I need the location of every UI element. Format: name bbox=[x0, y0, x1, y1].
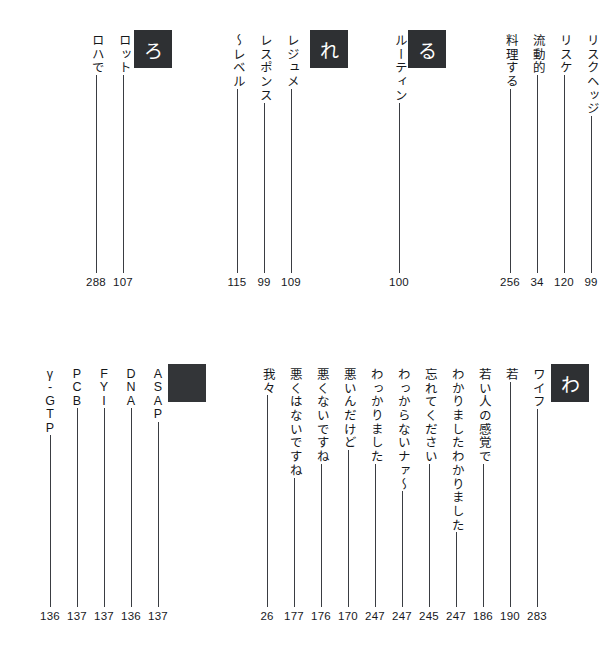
leader-line bbox=[291, 89, 292, 273]
leader-line bbox=[237, 89, 238, 273]
page-number: 245 bbox=[419, 607, 439, 623]
leader-line bbox=[123, 75, 124, 272]
index-entry: 若い人の感覚で186 bbox=[470, 368, 496, 622]
leader-line bbox=[564, 75, 565, 272]
leader-line bbox=[375, 464, 376, 607]
section-marker bbox=[168, 364, 206, 402]
index-term: リスクヘッジ bbox=[584, 34, 599, 116]
page-number: 115 bbox=[228, 273, 247, 289]
leader-line bbox=[510, 89, 511, 273]
index-entry: 悪くはないですね177 bbox=[281, 368, 307, 622]
page-number: 247 bbox=[365, 607, 385, 623]
index-entry: 〜レベル115 bbox=[224, 34, 250, 288]
index-term: ルーティン bbox=[392, 34, 407, 103]
page-number: 136 bbox=[40, 607, 60, 623]
index-entry: ルーティン100 bbox=[386, 34, 412, 288]
leader-line bbox=[399, 103, 400, 273]
page-number: 247 bbox=[392, 607, 412, 623]
page-number: 99 bbox=[257, 273, 270, 289]
page-number: 247 bbox=[446, 607, 466, 623]
page-number: 186 bbox=[473, 607, 493, 623]
leader-line bbox=[158, 422, 159, 607]
page-number: 99 bbox=[584, 273, 597, 289]
page-number: 107 bbox=[113, 273, 133, 289]
index-term: FYI bbox=[100, 368, 108, 408]
index-term: PCB bbox=[72, 368, 81, 408]
index-term: ロット bbox=[116, 34, 131, 75]
index-entry: DNA136 bbox=[118, 368, 144, 622]
leader-line bbox=[77, 408, 78, 606]
page-number: 137 bbox=[94, 607, 114, 623]
index-entry: 忘れてください245 bbox=[416, 368, 442, 622]
leader-line bbox=[96, 75, 97, 272]
leader-line bbox=[483, 464, 484, 607]
page-number: 100 bbox=[389, 273, 409, 289]
page-number: 170 bbox=[338, 607, 358, 623]
index-term: DNA bbox=[126, 368, 135, 408]
index-term: ASAP bbox=[154, 368, 162, 422]
index-term: 悪くはないですね bbox=[287, 368, 302, 478]
index-term: 流動的 bbox=[530, 34, 545, 75]
index-entry: 若190 bbox=[497, 368, 523, 622]
page-number: 137 bbox=[67, 607, 87, 623]
page-number: 109 bbox=[281, 273, 301, 289]
page-number: 177 bbox=[284, 607, 304, 623]
index-entry: FYI137 bbox=[91, 368, 117, 622]
leader-line bbox=[429, 464, 430, 607]
index-term: レジュメ bbox=[284, 34, 299, 89]
index-term: 悪いんだけど bbox=[341, 368, 356, 450]
page-number: 190 bbox=[500, 607, 520, 623]
page-number: 34 bbox=[530, 273, 543, 289]
page-number: 137 bbox=[148, 607, 168, 623]
index-entry: 悪いんだけど170 bbox=[335, 368, 361, 622]
index-term: わっからないナァ〜 bbox=[395, 368, 410, 491]
leader-line bbox=[402, 491, 403, 606]
page-number: 120 bbox=[554, 273, 574, 289]
index-term: 若 bbox=[503, 368, 518, 382]
index-term: リスケ bbox=[557, 34, 572, 75]
index-term: ロハで bbox=[89, 34, 104, 75]
index-entry: わかりましたわかりました247 bbox=[443, 368, 469, 622]
index-term: 忘れてください bbox=[422, 368, 437, 464]
index-entry: リスケ120 bbox=[551, 34, 577, 288]
index-entry: ロハで288 bbox=[83, 34, 109, 288]
section-marker: れ bbox=[310, 30, 348, 68]
index-entry: PCB137 bbox=[64, 368, 90, 622]
leader-line bbox=[294, 478, 295, 607]
leader-line bbox=[264, 103, 265, 273]
page-number: 136 bbox=[121, 607, 141, 623]
index-page: るリスクヘッジ99リスケ120流動的34料理する256れルーティン100ろレジュ… bbox=[0, 0, 611, 660]
index-term: γ-GTP bbox=[45, 368, 55, 435]
index-entry: 悪くないですね176 bbox=[308, 368, 334, 622]
index-term: 悪くないですね bbox=[314, 368, 329, 464]
page-number: 256 bbox=[500, 273, 520, 289]
index-entry: 流動的34 bbox=[524, 34, 550, 288]
index-entry: わっかりました247 bbox=[362, 368, 388, 622]
index-term: 若い人の感覚で bbox=[476, 368, 491, 464]
index-entry: ロット107 bbox=[110, 34, 136, 288]
leader-line bbox=[510, 382, 511, 607]
index-entry: ASAP137 bbox=[145, 368, 171, 622]
leader-line bbox=[321, 464, 322, 607]
leader-line bbox=[537, 75, 538, 272]
page-number: 176 bbox=[311, 607, 331, 623]
index-term: 〜レベル bbox=[230, 34, 245, 89]
leader-line bbox=[267, 395, 268, 606]
section-marker: わ bbox=[551, 364, 589, 402]
index-entry: ワイフ283 bbox=[524, 368, 550, 622]
index-entry: わっからないナァ〜247 bbox=[389, 368, 415, 622]
index-band-upper: るリスクヘッジ99リスケ120流動的34料理する256れルーティン100ろレジュ… bbox=[0, 0, 611, 330]
index-entry: レスポンス99 bbox=[251, 34, 277, 288]
section-marker: る bbox=[408, 30, 446, 68]
section-marker: ろ bbox=[134, 30, 172, 68]
leader-line bbox=[537, 409, 538, 606]
index-band-lower: わワイフ283若190若い人の感覚で186わかりましたわかりました247忘れてく… bbox=[0, 330, 611, 660]
page-number: 26 bbox=[260, 607, 273, 623]
leader-line bbox=[104, 408, 105, 606]
index-entry: γ-GTP136 bbox=[37, 368, 63, 622]
index-term: レスポンス bbox=[257, 34, 272, 103]
index-entry: レジュメ109 bbox=[278, 34, 304, 288]
index-term: ワイフ bbox=[530, 368, 545, 409]
leader-line bbox=[591, 116, 592, 272]
leader-line bbox=[50, 435, 51, 607]
